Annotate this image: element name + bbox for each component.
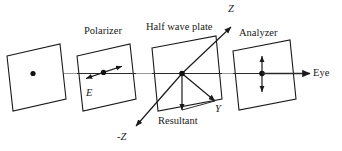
resultant-label: Resultant [158, 116, 198, 127]
y-axis-label: Y [215, 104, 221, 115]
source-plane-center-dot [30, 71, 35, 76]
half-wave-plate-center-dot [179, 71, 185, 77]
analyzer-plane [233, 40, 296, 110]
z-positive-label: Z [228, 4, 234, 15]
diagram-canvas: Polarizer Half wave plate Analyzer Eye E… [0, 0, 342, 151]
polarizer-plane-center-dot [101, 70, 106, 75]
z-negative-label: -Z [117, 132, 126, 143]
eye-label: Eye [313, 68, 329, 79]
polarizer-plane [77, 44, 136, 111]
analyzer-plane-outline [233, 40, 296, 110]
half-wave-plate-label: Half wave plate [146, 22, 212, 33]
analyzer-label: Analyzer [239, 28, 277, 39]
polarizer-label: Polarizer [84, 26, 122, 37]
e-field-label: E [86, 88, 92, 99]
source-plane [7, 44, 66, 111]
source-plane-outline [7, 44, 66, 111]
polarizer-plane-outline [77, 44, 136, 111]
